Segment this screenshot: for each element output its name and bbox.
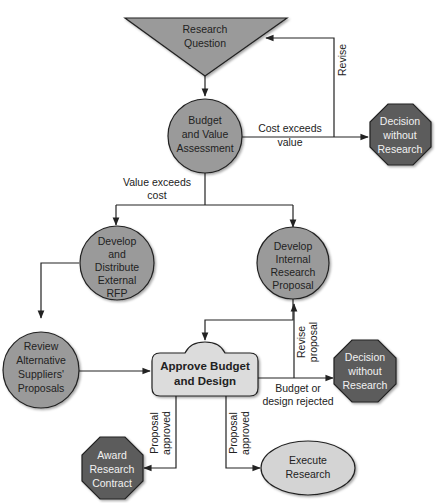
edge-rfp-to-review (41, 263, 79, 318)
node-text: without (347, 365, 381, 377)
node-text: Research (286, 468, 331, 480)
node-text: Proposal (272, 279, 313, 291)
label-revise-proposal-2: proposal (307, 322, 319, 362)
node-text: Research (271, 266, 316, 278)
node-text: Decision (380, 115, 420, 127)
node-text: Develop (98, 235, 137, 247)
node-text: and Value (182, 128, 229, 140)
label-cost-exceeds-2: value (277, 136, 302, 148)
node-text: RFP (107, 287, 128, 299)
node-text: and (108, 248, 126, 260)
node-text: without (382, 129, 416, 141)
node-text: External (98, 274, 137, 286)
label-approved-right-2: approved (239, 411, 251, 455)
node-develop-external-rfp: Develop and Distribute External RFP (80, 226, 154, 300)
node-budget-value-assessment: Budget and Value Assessment (168, 99, 242, 173)
label-cost-exceeds-1: Cost exceeds (258, 122, 322, 134)
node-text: Internal (275, 253, 310, 265)
node-text: Approve Budget (160, 360, 250, 372)
node-text: Budget (188, 114, 221, 126)
node-text: Proposals (18, 382, 65, 394)
node-execute-research: Execute Research (261, 441, 355, 495)
node-text: Question (184, 37, 226, 49)
node-text: Distribute (95, 261, 140, 273)
node-approve-budget-design: Approve Budget and Design (152, 342, 258, 396)
node-text: Research (343, 379, 388, 391)
edge-internal-to-approve (205, 299, 293, 340)
label-approved-left-2: approved (160, 411, 172, 455)
node-text: Suppliers' (18, 368, 64, 380)
node-text: and Design (174, 375, 236, 387)
label-approved-right-1: Proposal (227, 412, 239, 453)
node-text: Assessment (176, 142, 233, 154)
node-decision-without-research-top: Decision without Research (370, 104, 431, 165)
node-text: Contract (92, 477, 132, 489)
label-approved-left-1: Proposal (148, 412, 160, 453)
node-text: Research (90, 463, 135, 475)
label-budget-rejected-1: Budget or (275, 382, 321, 394)
research-process-flowchart: Revise Cost exceeds value Value exceeds … (0, 0, 443, 503)
node-award-research-contract: Award Research Contract (82, 437, 143, 499)
label-budget-rejected-2: design rejected (262, 395, 333, 407)
node-review-suppliers-proposals: Review Alternative Suppliers' Proposals (3, 332, 79, 408)
node-research-question: Research Question (125, 18, 287, 76)
node-develop-internal-proposal: Develop Internal Research Proposal (257, 227, 329, 299)
node-text: Research (378, 143, 423, 155)
label-value-exceeds-2: cost (147, 189, 166, 201)
label-revise-proposal-1: Revise (295, 326, 307, 358)
label-value-exceeds-1: Value exceeds (123, 176, 191, 188)
node-text: Alternative (16, 354, 66, 366)
node-text: Award (97, 449, 127, 461)
node-decision-without-research-bottom: Decision without Research (334, 340, 396, 402)
node-text: Execute (289, 454, 327, 466)
node-text: Decision (345, 351, 385, 363)
node-text: Develop (274, 240, 313, 252)
node-text: Review (24, 340, 59, 352)
node-text: Research (183, 23, 228, 35)
label-revise: Revise (336, 44, 348, 76)
